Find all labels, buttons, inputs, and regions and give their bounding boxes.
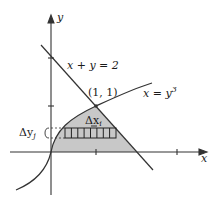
x-axis-label: x: [201, 152, 208, 165]
dy-label: Δyj: [19, 126, 36, 140]
cubic-label: x = y3: [143, 85, 177, 100]
intersection-point: [94, 104, 98, 108]
y-axis: [48, 15, 54, 195]
line-label: x + y = 2: [67, 59, 119, 72]
y-axis-label: y: [56, 11, 64, 24]
dy-brace: [45, 128, 49, 138]
shaded-region: [51, 106, 136, 152]
region-diagram: y x x + y = 2 (1, 1) x = y3 Δxi Δyj: [0, 0, 218, 203]
intersection-label: (1, 1): [88, 86, 118, 99]
